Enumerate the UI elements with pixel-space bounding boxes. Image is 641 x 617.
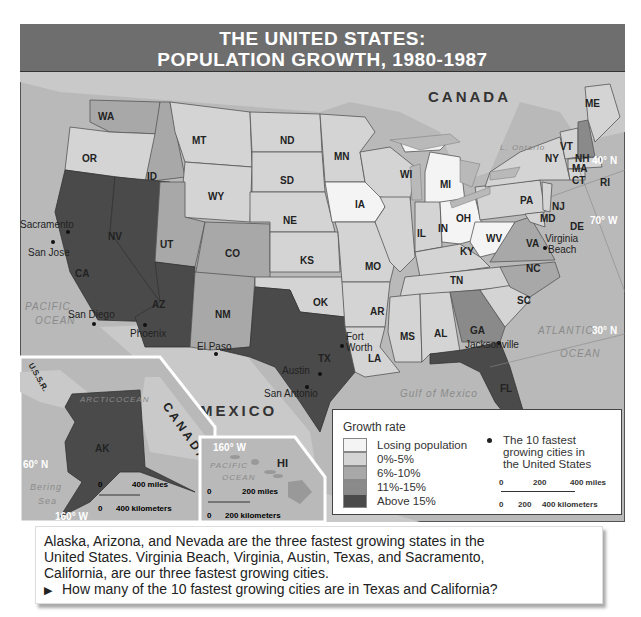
city-san-antonio: San Antonio: [264, 388, 318, 399]
label-tn: TN: [450, 275, 463, 286]
legend: Growth rate Losing population 0%-5% 6%-1…: [332, 409, 622, 515]
city-dot-fort-worth: [340, 344, 344, 348]
label-160w-hi: 160° W: [213, 442, 246, 453]
label-nm: NM: [215, 309, 231, 320]
label-id: ID: [147, 171, 157, 182]
label-arctic-ocean: OCEAN: [116, 395, 149, 404]
hawaii-inset: HI 160° W PACIFIC OCEAN 0 200 miles 0 20…: [200, 437, 325, 522]
hi-scale-miles: 200 miles: [242, 487, 279, 496]
ak-scale-km-0: 0: [98, 504, 103, 513]
label-mt: MT: [192, 135, 206, 146]
triangle-bullet-icon: ▶: [44, 582, 52, 598]
label-va: VA: [526, 238, 539, 249]
scale-miles-400: 400 miles: [570, 478, 606, 487]
scale-miles-0: 0: [499, 478, 503, 487]
label-wy: WY: [208, 191, 224, 202]
label-canada: CANADA: [428, 88, 511, 105]
scale-miles-200: 200: [533, 478, 546, 487]
label-me: ME: [585, 98, 600, 109]
ak-scale-km: 400 kilometers: [116, 504, 172, 513]
city-virginia-beach-2: Beach: [548, 244, 576, 255]
legend-title: Growth rate: [343, 420, 406, 434]
city-dot-virginia-beach: [543, 246, 547, 250]
label-ny: NY: [545, 153, 559, 164]
ak-scale-miles: 400 miles: [132, 480, 169, 489]
city-fort-worth-2: Worth: [346, 342, 373, 353]
label-bering: Bering: [30, 482, 62, 492]
label-sc: SC: [517, 295, 531, 306]
legend-swatch: [343, 480, 367, 494]
legend-item-0-5: 0%-5%: [343, 452, 414, 466]
label-ga: GA: [470, 325, 485, 336]
scale-km-400: 400 kilometers: [542, 500, 598, 509]
state-ks: [270, 232, 340, 272]
question: ▶ How many of the 10 fastest growing cit…: [44, 581, 594, 598]
caption-line-3: California, are our three fastest growin…: [44, 565, 594, 581]
label-md: MD: [540, 213, 556, 224]
city-dot-san-jose: [51, 240, 55, 244]
label-ky: KY: [460, 246, 474, 257]
scale-bar: [501, 491, 575, 492]
label-hi-ocean: OCEAN: [222, 473, 255, 482]
city-fort-worth-1: Fort: [346, 331, 364, 342]
label-arctic: ARCTIC: [79, 395, 116, 404]
legend-item-6-10: 6%-10%: [343, 466, 420, 480]
hi-scale-km-0: 0: [207, 511, 212, 520]
label-ut: UT: [160, 239, 173, 250]
label-atlantic-ocean: OCEAN: [560, 348, 601, 359]
label-sd: SD: [280, 175, 294, 186]
legend-cities-text: The 10 fastest growing cities in the Uni…: [503, 434, 591, 470]
legend-swatch: [343, 466, 367, 480]
legend-cities-line-3: the United States: [503, 458, 591, 470]
caption-box: Alaska, Arizona, and Nevada are the thre…: [35, 526, 603, 604]
label-lake-ontario: L. Ontario: [500, 143, 545, 152]
state-ms: [388, 294, 422, 362]
label-wa: WA: [98, 111, 114, 122]
label-mn: MN: [334, 151, 350, 162]
label-in: IN: [438, 223, 448, 234]
label-or: OR: [82, 153, 98, 164]
label-70w: 70° W: [590, 215, 618, 226]
legend-item-above-15: Above 15%: [343, 494, 436, 508]
legend-swatch: [343, 438, 367, 452]
label-wv: WV: [486, 233, 502, 244]
state-sd: [252, 152, 325, 192]
city-phoenix: Phoenix: [130, 328, 166, 339]
legend-swatch: [343, 452, 367, 466]
scale-km-0: 0: [499, 500, 503, 509]
label-al: AL: [434, 328, 447, 339]
state-nd: [250, 112, 322, 152]
city-el-paso: El Paso: [197, 341, 232, 352]
label-ma: MA: [572, 163, 588, 174]
city-sacramento: Sacramento: [20, 219, 74, 230]
label-mexico: MEXICO: [200, 402, 277, 419]
label-ar: AR: [370, 306, 385, 317]
label-hi: HI: [277, 457, 288, 469]
hi-scale-miles-0: 0: [207, 487, 212, 496]
state-ar: [342, 282, 390, 327]
label-pacific: PACIFIC: [25, 301, 71, 312]
label-oh: OH: [456, 213, 471, 224]
label-az: AZ: [152, 299, 165, 310]
map-title: THE UNITED STATES: POPULATION GROWTH, 19…: [20, 24, 625, 72]
city-dot-phoenix: [143, 323, 147, 327]
label-ct: CT: [572, 175, 585, 186]
label-ks: KS: [300, 255, 314, 266]
label-de: DE: [570, 221, 584, 232]
hi-scale-km: 200 kilometers: [225, 511, 281, 520]
legend-swatch: [343, 494, 367, 508]
legend-label: 0%-5%: [377, 453, 414, 465]
label-mi: MI: [440, 179, 451, 190]
label-ia: IA: [355, 199, 365, 210]
label-atlantic: ATLANTIC: [537, 325, 594, 336]
city-dot-san-diego: [92, 322, 96, 326]
city-dot-sacramento: [66, 230, 70, 234]
label-sea: Sea: [38, 496, 57, 506]
ak-scale-miles-0: 0: [98, 480, 103, 489]
city-austin: Austin: [282, 365, 310, 376]
label-gulf-of-mexico: Gulf of Mexico: [400, 388, 478, 399]
title-line-2: POPULATION GROWTH, 1980-1987: [20, 49, 625, 70]
city-dot-icon: [487, 438, 492, 443]
label-pa: PA: [520, 195, 533, 206]
label-la: LA: [368, 353, 381, 364]
